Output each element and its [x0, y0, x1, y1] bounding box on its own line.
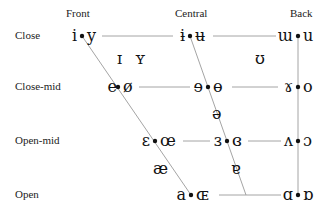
vowel-script-a: ɑ — [283, 185, 293, 204]
vowel-oe: œ — [160, 131, 176, 150]
vowel-epsilon: ɛ — [142, 131, 150, 150]
vowel-i: i — [72, 26, 77, 45]
column-front: Front — [66, 7, 90, 19]
vowel-reversed-e: ɘ — [194, 77, 203, 96]
vowel-closed-reversed-epsilon: ɞ — [232, 131, 242, 150]
vowel-dot — [296, 85, 300, 89]
vowel-pair-close-front: i y — [72, 26, 96, 45]
vowel-dot — [296, 139, 300, 143]
vowel-dot — [116, 85, 120, 89]
vowel-dot — [225, 139, 229, 143]
column-central: Central — [175, 7, 207, 19]
vowel-pair-open-mid-back: ʌ ɔ — [283, 131, 312, 150]
vowel-rams-horn: ɤ — [284, 77, 293, 96]
vowel-pair-close-back: ɯ u — [278, 26, 313, 45]
vowel-barred-i: ɨ — [180, 26, 185, 45]
vowel-turned-m: ɯ — [278, 26, 293, 45]
vowel-o: o — [303, 77, 313, 96]
vowel-dot — [206, 85, 210, 89]
vowel-dot — [80, 34, 84, 38]
vowel-pair-open-mid-front: ɛ œ — [142, 131, 176, 150]
vowel-small-cap-i: ɪ — [117, 49, 122, 68]
vowel-dot — [296, 193, 300, 197]
vowel-e: e — [108, 77, 117, 96]
vowel-schwa: ə — [212, 104, 221, 123]
chart-lines — [82, 36, 298, 195]
vowel-small-cap-oe: ɶ — [196, 185, 209, 204]
vowel-turned-a: ɐ — [231, 159, 241, 178]
vowel-reversed-epsilon: ɜ — [214, 131, 222, 150]
vowel-dot — [188, 34, 192, 38]
vowel-barred-u: ʉ — [195, 26, 205, 45]
vowel-o-slash: ø — [123, 77, 133, 96]
vowel-pair-open-mid-central: ɜ ɞ — [214, 131, 242, 150]
vowel-dot — [189, 193, 193, 197]
vowel-pair-close-mid-central: ɘ ɵ — [194, 77, 223, 96]
vowel-pair-open-front: a ɶ — [176, 185, 209, 204]
row-open-mid: Open-mid — [15, 134, 60, 146]
vowel-dot — [296, 34, 300, 38]
vowel-turned-v: ʌ — [283, 131, 293, 150]
vowel-chart: Front Central Back Close Close-mid Open-… — [0, 0, 333, 216]
row-open: Open — [15, 188, 39, 200]
vowel-small-cap-y: ʏ — [135, 49, 145, 68]
vowel-open-o: ɔ — [303, 131, 312, 150]
vowel-barred-o: ɵ — [213, 77, 223, 96]
vowel-dot — [153, 139, 157, 143]
row-close: Close — [15, 29, 40, 41]
vowel-upsilon: ʊ — [255, 49, 265, 68]
vowel-pair-close-mid-front: e ø — [108, 77, 133, 96]
vowel-ash: æ — [153, 159, 168, 178]
row-close-mid: Close-mid — [15, 80, 61, 92]
vowel-turned-script-a: ɒ — [303, 185, 313, 204]
vowel-a: a — [176, 185, 186, 204]
vowel-y: y — [86, 26, 96, 45]
vowel-u: u — [303, 26, 313, 45]
column-back: Back — [290, 7, 313, 19]
